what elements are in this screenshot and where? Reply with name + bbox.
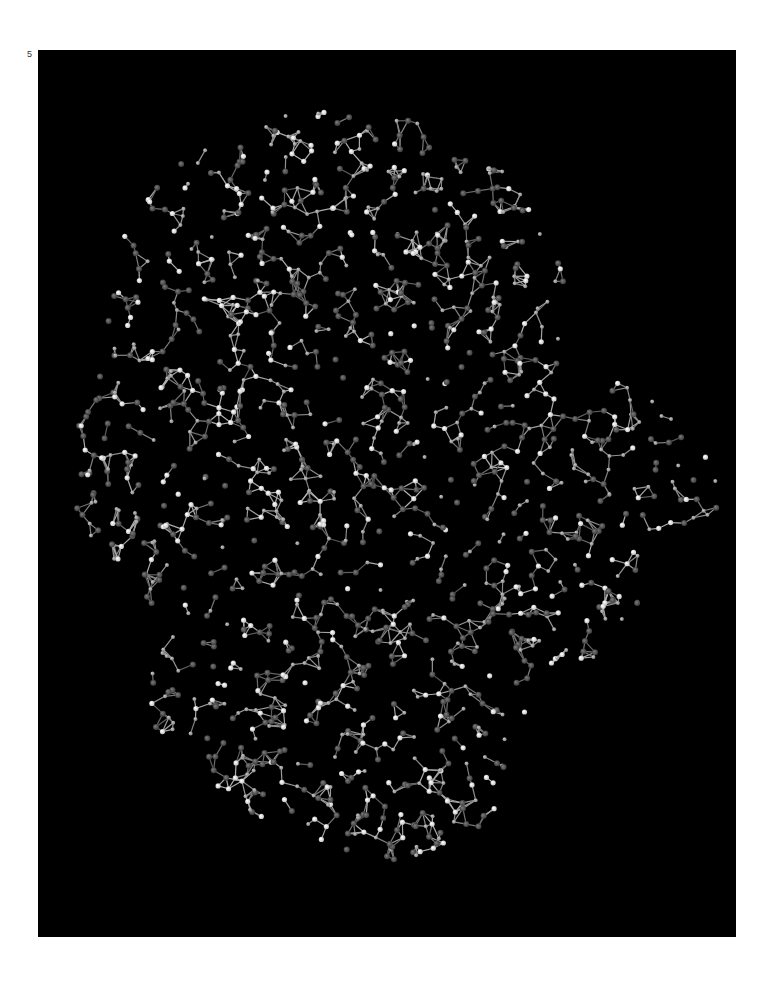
molecule-figure-panel [38, 50, 736, 937]
protein-structure-render [38, 50, 736, 937]
page-number: 5 [27, 49, 32, 59]
